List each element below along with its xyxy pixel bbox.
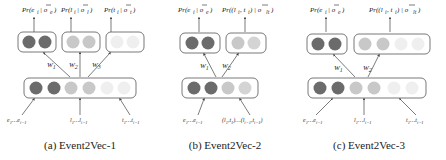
svg-text:) | o: ) | o xyxy=(249,6,262,14)
output-box-e xyxy=(180,33,220,53)
svg-text:| o: | o xyxy=(77,6,85,14)
svg-text:Pr(l: Pr(l xyxy=(60,6,72,14)
svg-text:| o: | o xyxy=(328,6,336,14)
input-arrow-e xyxy=(316,99,332,115)
weight-w2: W2 xyxy=(69,61,78,70)
weight-w1: W1 xyxy=(334,64,343,73)
weight-w3: W3 xyxy=(92,61,101,70)
event2vec-diagram: Pr(ei| oe) Pr(li| ol) Pr(ti| ot) xyxy=(0,0,446,160)
svg-text:| o: | o xyxy=(40,6,48,14)
input-label-t: t1…ti−1 xyxy=(122,117,139,125)
output-label-lt: Pr((li, ti) | olt) xyxy=(221,5,274,15)
output-label-e: Pr(ei| oe) xyxy=(309,5,345,15)
output-label-e: Pr(ei| oe) xyxy=(177,5,213,15)
weight-w2-line xyxy=(368,55,379,77)
svg-text:lt: lt xyxy=(266,9,270,15)
input-label-e: e1…ei−1 xyxy=(183,117,202,125)
svg-text:): ) xyxy=(209,6,213,14)
output-box-t xyxy=(106,32,144,52)
panel-b: Pr(ei| oe) Pr((li, ti) | olt) W1 W2 xyxy=(177,5,274,152)
input-arrow-t xyxy=(400,99,416,115)
svg-text:Pr((l: Pr((l xyxy=(221,6,236,14)
svg-text:e: e xyxy=(206,9,209,15)
caption-c: (c) Event2Vec-3 xyxy=(333,139,405,152)
svg-text:) | o: ) | o xyxy=(396,6,409,14)
svg-text:| o: | o xyxy=(120,6,128,14)
svg-text:| o: | o xyxy=(196,6,204,14)
input-arrow-t xyxy=(120,99,130,115)
svg-text:lt: lt xyxy=(413,9,417,15)
input-box xyxy=(308,78,426,98)
input-arrow-lt xyxy=(240,99,250,115)
svg-text:i: i xyxy=(74,9,76,15)
svg-text:e: e xyxy=(338,9,341,15)
input-label-l: l1…li−1 xyxy=(70,117,87,125)
weight-w2: W2 xyxy=(222,62,231,71)
svg-text:e: e xyxy=(50,9,53,15)
input-label-lt: (l1,t1)…(li−1,ti−1) xyxy=(222,117,263,125)
input-label-e: e1…ei−1 xyxy=(7,117,26,125)
svg-text:): ) xyxy=(89,6,93,14)
svg-text:Pr(e: Pr(e xyxy=(21,6,34,14)
input-label-e: e1…ei−1 xyxy=(303,117,322,125)
output-box-lt xyxy=(354,34,430,54)
svg-text:): ) xyxy=(417,6,421,14)
svg-text:i: i xyxy=(325,9,327,15)
output-box-e xyxy=(18,32,56,52)
svg-text:): ) xyxy=(132,6,136,14)
svg-text:Pr((l: Pr((l xyxy=(368,6,383,14)
svg-text:): ) xyxy=(53,6,57,14)
svg-text:i: i xyxy=(193,9,195,15)
svg-text:l: l xyxy=(87,9,89,15)
svg-text:): ) xyxy=(270,6,274,14)
svg-text:, t: , t xyxy=(387,6,394,14)
output-label-lt: Pr((li, ti) | olt) xyxy=(368,5,421,15)
svg-text:t: t xyxy=(130,9,132,15)
weight-w2: W2 xyxy=(363,64,372,73)
input-arrow-e xyxy=(22,99,34,115)
input-label-t: t1…ti−1 xyxy=(406,117,423,125)
input-arrow-e xyxy=(198,99,204,115)
weight-w1: W1 xyxy=(200,62,209,71)
panel-a: Pr(ei| oe) Pr(li| ol) Pr(ti| ot) xyxy=(7,5,144,152)
svg-text:Pr(t: Pr(t xyxy=(103,6,116,14)
svg-text:i: i xyxy=(117,9,119,15)
caption-a: (a) Event2Vec-1 xyxy=(44,139,116,152)
output-box-e xyxy=(307,34,347,54)
input-box xyxy=(182,78,258,98)
output-label-e: Pr(ei| oe) xyxy=(21,5,57,15)
svg-text:): ) xyxy=(341,6,345,14)
svg-text:, t: , t xyxy=(240,6,247,14)
output-label-t: Pr(ti| ot) xyxy=(103,5,136,15)
output-label-l: Pr(li| ol) xyxy=(60,5,93,15)
input-label-l: l1…li−1 xyxy=(354,117,371,125)
caption-b: (b) Event2Vec-2 xyxy=(189,139,261,152)
input-box xyxy=(24,78,136,98)
svg-text:i: i xyxy=(37,9,39,15)
svg-text:Pr(e: Pr(e xyxy=(309,6,322,14)
output-box-lt xyxy=(226,33,266,53)
output-box-l xyxy=(62,32,100,52)
panel-c: Pr(ei| oe) Pr((li, ti) | olt) W1 W2 xyxy=(303,5,430,152)
svg-text:Pr(e: Pr(e xyxy=(177,6,190,14)
